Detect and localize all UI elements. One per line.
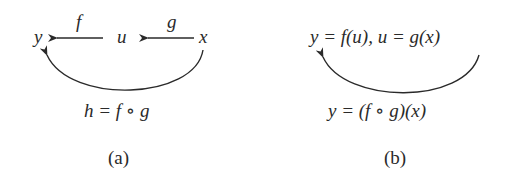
bottom-equation: y = (f ∘ g)(x) [328,101,426,120]
arrow-composition-arc [323,55,479,93]
var-y: y [34,27,42,46]
top-equation: y = f(u), u = g(x) [310,27,440,46]
var-u: u [117,27,127,46]
composition-label: h = f ∘ g [84,101,149,120]
var-x: x [199,27,207,46]
label-g: g [167,12,177,31]
label-f: f [76,12,81,31]
caption-a: (a) [108,148,129,167]
caption-b: (b) [384,148,406,167]
arrow-h-arc [47,50,203,90]
